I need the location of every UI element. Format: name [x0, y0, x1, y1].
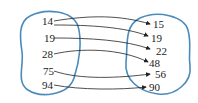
arrow-19-22	[54, 38, 150, 49]
arrows	[54, 17, 150, 89]
codomain-value: 19	[151, 32, 163, 44]
domain-value: 75	[43, 65, 55, 77]
codomain-value: 90	[149, 81, 161, 93]
mapping-diagram: 14 19 28 75 94 15 19 22 48 56 90	[0, 0, 198, 103]
domain-value: 94	[42, 79, 54, 91]
codomain-value: 56	[155, 68, 167, 80]
arrow-75-56	[54, 71, 150, 77]
arrow-14-15	[54, 17, 150, 24]
arrow-28-48	[54, 50, 148, 62]
codomain-value: 15	[153, 18, 165, 30]
domain-value: 28	[42, 48, 54, 60]
domain-value: 14	[42, 15, 54, 27]
codomain-value: 22	[156, 45, 167, 57]
arrow-94-90	[54, 85, 146, 89]
domain-value: 19	[44, 32, 56, 44]
arrow-14-19	[54, 25, 148, 36]
